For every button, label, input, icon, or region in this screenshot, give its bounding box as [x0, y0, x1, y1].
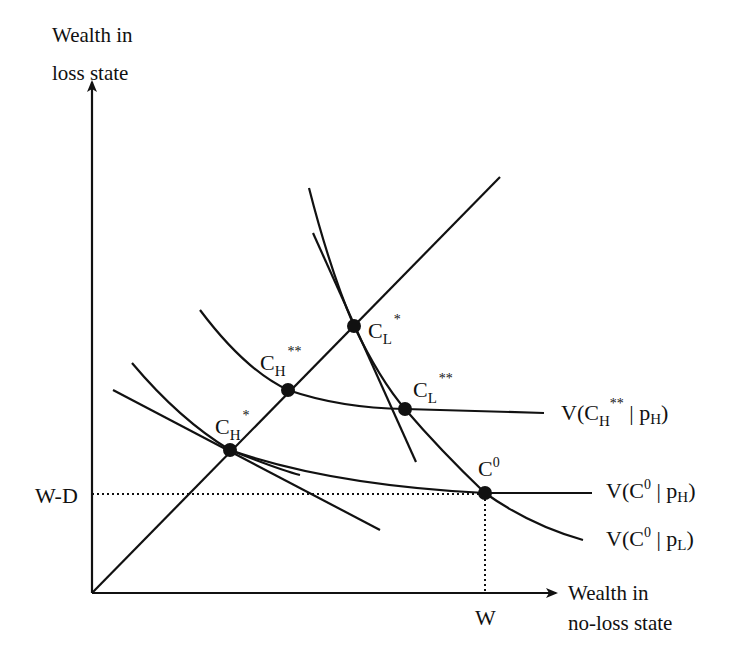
point-ch-star	[223, 443, 237, 457]
y-axis-label-line2: loss state	[52, 61, 128, 85]
y-axis-label-line1: Wealth in	[52, 23, 133, 47]
point-cl-star	[347, 319, 361, 333]
point-c0	[478, 486, 492, 500]
label-v-c0-ph: V(C0 | pH)	[606, 477, 695, 505]
label-cl-double-star: CL**	[413, 371, 453, 406]
y-tick-w-d: W-D	[35, 483, 78, 508]
x-tick-w: W	[475, 605, 496, 630]
tangent-line-cl-star	[313, 233, 416, 462]
label-ch-double-star: CH**	[260, 344, 302, 379]
x-axis-label-line1: Wealth in	[568, 581, 649, 605]
label-cl-star: CL*	[368, 312, 401, 347]
point-cl-double-star	[398, 402, 412, 416]
label-v-ch2-ph: V(CH** | pH)	[561, 396, 668, 429]
curve-v-c0-pl	[309, 188, 583, 540]
label-v-c0-pl: V(C0 | pL)	[606, 525, 694, 553]
x-axis-label-line2: no-loss state	[568, 611, 672, 635]
curve-v-c0-ph	[230, 450, 592, 493]
insurance-diagram: Wealth in loss state Wealth in no-loss s…	[0, 0, 739, 660]
label-c0: C0	[478, 455, 500, 481]
point-ch-double-star	[281, 383, 295, 397]
